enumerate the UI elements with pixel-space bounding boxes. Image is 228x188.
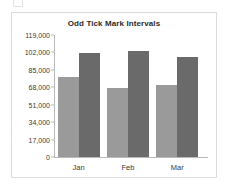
- bar: [107, 88, 128, 157]
- bar-group: [153, 35, 202, 157]
- bar: [177, 57, 198, 157]
- bar: [156, 85, 177, 157]
- stray-glyph-artifact: [13, 0, 23, 7]
- bar-group: [54, 35, 103, 157]
- x-axis-line: [54, 157, 208, 158]
- bar-group: [103, 35, 152, 157]
- bar: [128, 51, 149, 157]
- y-axis-tick-label: 102,000: [25, 49, 54, 56]
- x-axis-tick-label: Feb: [122, 163, 135, 172]
- x-axis-tick-label: Mar: [171, 163, 184, 172]
- chart-title: Odd Tick Mark Intervals: [12, 19, 216, 28]
- plot-area: 017,00034,00051,00068,00085,000102,00011…: [54, 35, 202, 157]
- y-axis-tick-label: 119,000: [25, 32, 54, 39]
- x-axis-tick-label: Jan: [73, 163, 85, 172]
- bar: [58, 77, 79, 157]
- bar: [79, 53, 100, 157]
- chart-container: Odd Tick Mark Intervals 017,00034,00051,…: [11, 12, 217, 178]
